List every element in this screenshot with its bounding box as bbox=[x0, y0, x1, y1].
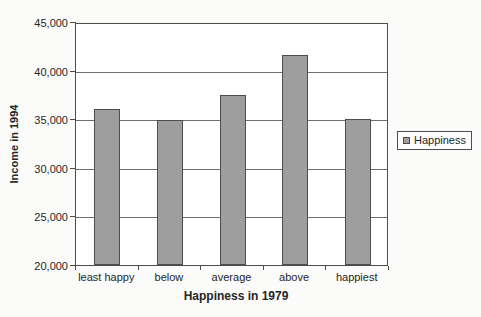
y-tick-mark bbox=[70, 71, 76, 72]
plot-area bbox=[75, 23, 388, 266]
chart: Income in 1994 Happiness in 1979 Happine… bbox=[0, 0, 481, 317]
x-category-label: below bbox=[134, 271, 204, 284]
y-tick-mark bbox=[70, 168, 76, 169]
x-tick-mark bbox=[200, 266, 201, 270]
legend-label: Happiness bbox=[414, 135, 466, 146]
x-tick-mark bbox=[325, 266, 326, 270]
y-axis-title: Income in 1994 bbox=[8, 84, 20, 204]
bar-above bbox=[282, 55, 308, 265]
y-tick-mark bbox=[70, 119, 76, 120]
y-tick-label: 40,000 bbox=[22, 67, 68, 78]
legend-swatch-icon bbox=[403, 137, 410, 144]
y-tick-label: 45,000 bbox=[22, 18, 68, 29]
bar-least-happy bbox=[94, 109, 120, 265]
y-tick-label: 30,000 bbox=[22, 164, 68, 175]
x-category-label: above bbox=[259, 271, 329, 284]
bar-average bbox=[220, 95, 246, 265]
bar-happiest bbox=[345, 119, 371, 265]
y-tick-label: 20,000 bbox=[22, 261, 68, 272]
x-tick-mark bbox=[263, 266, 264, 270]
bar-below bbox=[157, 120, 183, 265]
gridline bbox=[76, 72, 387, 73]
x-tick-mark bbox=[138, 266, 139, 270]
y-tick-label: 35,000 bbox=[22, 115, 68, 126]
x-tick-mark bbox=[388, 266, 389, 270]
y-tick-label: 25,000 bbox=[22, 212, 68, 223]
x-tick-mark bbox=[75, 266, 76, 270]
x-category-label: average bbox=[197, 271, 267, 284]
y-tick-mark bbox=[70, 22, 76, 23]
y-tick-mark bbox=[70, 216, 76, 217]
x-category-label: least happy bbox=[71, 271, 141, 284]
legend: Happiness bbox=[397, 131, 472, 150]
x-axis-title: Happiness in 1979 bbox=[156, 289, 316, 303]
x-category-label: happiest bbox=[322, 271, 392, 284]
